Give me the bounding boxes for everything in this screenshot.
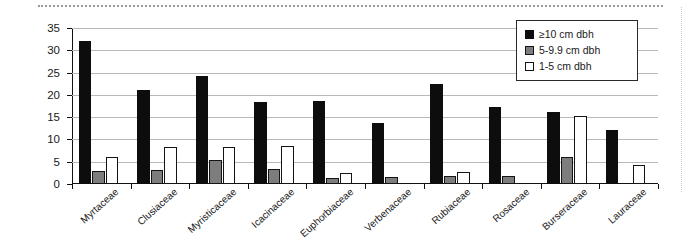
chart-legend: ≥10 cm dbh 5-9.9 cm dbh 1-5 cm dbh bbox=[516, 20, 638, 81]
y-axis-tick-label: 0 bbox=[54, 179, 60, 191]
legend-item-large: ≥10 cm dbh bbox=[525, 26, 631, 42]
bar bbox=[281, 146, 294, 184]
legend-swatch-medium-icon bbox=[525, 46, 534, 55]
y-axis-line bbox=[72, 28, 73, 184]
y-axis-tick: 35 bbox=[67, 28, 72, 29]
x-axis-tick-labels: MyrtaceaeClusiaceaeMyristicaceaeIcacinac… bbox=[72, 186, 658, 248]
y-axis-tick-label: 35 bbox=[47, 23, 60, 35]
y-axis-tick: 5 bbox=[67, 162, 72, 163]
bar bbox=[326, 178, 339, 184]
bar-chart-figure: Number of individuals 05101520253035 Myr… bbox=[0, 0, 685, 249]
scan-edge-top-rule bbox=[38, 5, 663, 7]
y-axis-tick-label: 20 bbox=[47, 90, 60, 102]
y-axis-tick-label: 25 bbox=[47, 68, 60, 80]
legend-swatch-small-icon bbox=[525, 62, 534, 71]
legend-item-small: 1-5 cm dbh bbox=[525, 58, 631, 74]
bar bbox=[633, 165, 646, 184]
bar bbox=[106, 157, 119, 184]
bar bbox=[574, 116, 587, 184]
bar bbox=[444, 176, 457, 184]
legend-swatch-large-icon bbox=[525, 30, 534, 39]
bar bbox=[79, 41, 92, 184]
y-axis-tick-label: 5 bbox=[54, 157, 60, 169]
y-axis-tick-label: 10 bbox=[47, 135, 60, 147]
legend-label-small: 1-5 cm dbh bbox=[539, 61, 592, 72]
gridline bbox=[72, 139, 658, 140]
y-axis-tick: 20 bbox=[67, 95, 72, 96]
legend-label-large: ≥10 cm dbh bbox=[539, 29, 594, 40]
bar bbox=[268, 169, 281, 184]
bar bbox=[502, 176, 515, 184]
y-axis-tick-label: 15 bbox=[47, 112, 60, 124]
y-axis-tick: 30 bbox=[67, 50, 72, 51]
bar bbox=[151, 170, 164, 184]
y-axis-tick: 25 bbox=[67, 73, 72, 74]
y-axis-tick: 15 bbox=[67, 117, 72, 118]
y-axis-tick: 10 bbox=[67, 139, 72, 140]
legend-item-medium: 5-9.9 cm dbh bbox=[525, 42, 631, 58]
bar bbox=[92, 171, 105, 184]
y-axis-tick-label: 30 bbox=[47, 46, 60, 58]
bar bbox=[385, 177, 398, 184]
bar bbox=[164, 147, 177, 184]
bar bbox=[223, 147, 236, 184]
gridline bbox=[72, 95, 658, 96]
legend-label-medium: 5-9.9 cm dbh bbox=[539, 45, 600, 56]
gridline bbox=[72, 117, 658, 118]
